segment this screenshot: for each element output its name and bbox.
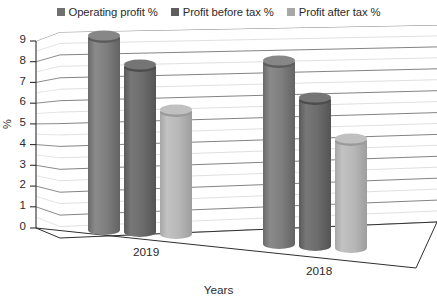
bar-profit-before-tax-2019 — [124, 60, 156, 237]
bar-profit-before-tax-2018 — [299, 93, 331, 251]
x-axis-title: Years — [0, 283, 437, 297]
bar-operating-profit-2018 — [263, 56, 295, 249]
y-tick-2: 2 — [4, 178, 26, 190]
bar-profit-after-tax-2019 — [160, 105, 192, 239]
y-tick-8: 8 — [4, 54, 26, 66]
y-tick-7: 7 — [4, 75, 26, 87]
y-tick-0: 0 — [4, 220, 26, 232]
left-side-wall — [30, 32, 60, 238]
y-tick-9: 9 — [4, 33, 26, 45]
y-tick-3: 3 — [4, 158, 26, 170]
y-tick-4: 4 — [4, 137, 26, 149]
y-axis-title: % — [1, 119, 13, 129]
bar-profit-after-tax-2018 — [335, 134, 367, 253]
x-tick-2018: 2018 — [306, 264, 332, 278]
chart-plot-area — [0, 0, 437, 306]
y-tick-6: 6 — [4, 95, 26, 107]
y-tick-1: 1 — [4, 199, 26, 211]
chart-container: Operating profit % Profit before tax % P… — [0, 0, 437, 306]
x-tick-2019: 2019 — [133, 245, 159, 259]
bar-operating-profit-2019 — [88, 31, 120, 235]
